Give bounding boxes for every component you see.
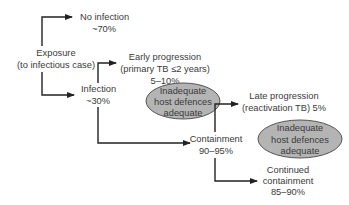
exposure-sublabel: (to infectious case) <box>17 60 95 70</box>
containment-percent: 90–95% <box>199 146 233 156</box>
host-defences-ellipse-2: Inadequate host defences adequate <box>258 120 342 158</box>
connector-containment-late-progression <box>215 104 238 132</box>
late-progression-label: Late progression <box>249 91 318 101</box>
connector-containment-continued <box>215 158 257 181</box>
node-early-progression: Early progression (primary TB ≤2 years) … <box>120 52 210 86</box>
exposure-label: Exposure <box>36 48 75 58</box>
connector-exposure-infection <box>42 72 74 95</box>
late-progression-sublabel: (reactivation TB) 5% <box>242 103 326 113</box>
host-defences-2-line2: host defences <box>271 135 329 145</box>
host-defences-1-line2: host defences <box>154 97 212 107</box>
node-no-infection: No infection ~70% <box>80 12 129 34</box>
containment-label: Containment <box>190 134 243 144</box>
host-defences-1-line3: adequate <box>164 108 203 118</box>
host-defences-2-line1: Inadequate <box>277 123 324 133</box>
host-defences-2-line3: adequate <box>281 146 320 156</box>
node-infection: Infection ~30% <box>81 84 116 106</box>
continued-containment-sublabel: containment <box>263 176 314 186</box>
early-progression-label: Early progression <box>129 52 201 62</box>
connector-exposure-no-infection <box>42 17 72 46</box>
continued-containment-percent: 85–90% <box>271 187 305 197</box>
node-late-progression: Late progression (reactivation TB) 5% <box>242 91 326 113</box>
infection-label: Infection <box>81 84 116 94</box>
node-continued-containment: Continued containment 85–90% <box>263 165 314 197</box>
no-infection-label: No infection <box>80 12 129 22</box>
early-progression-sublabel: (primary TB ≤2 years) <box>120 64 210 74</box>
continued-containment-label: Continued <box>267 165 309 175</box>
no-infection-percent: ~70% <box>92 24 116 34</box>
connector-infection-early-progression <box>98 63 116 83</box>
node-containment: Containment 90–95% <box>190 134 243 156</box>
host-defences-ellipse-1: Inadequate host defences adequate <box>146 83 220 119</box>
infection-percent: ~30% <box>86 96 110 106</box>
tb-outcome-diagram: Exposure (to infectious case) No infecti… <box>0 0 349 205</box>
node-exposure: Exposure (to infectious case) <box>17 48 95 70</box>
host-defences-1-line1: Inadequate <box>160 86 207 96</box>
